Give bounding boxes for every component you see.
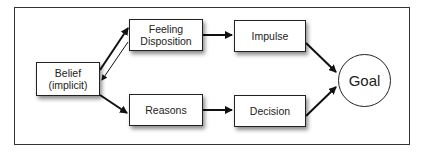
node-belief: Belief (implicit)	[36, 62, 100, 96]
node-feeling-disposition: Feeling Disposition	[129, 19, 203, 51]
node-goal: Goal	[338, 54, 391, 107]
node-reasons: Reasons	[129, 94, 203, 126]
node-impulse-label: Impulse	[252, 30, 289, 42]
edge-belief-to-reasons	[100, 95, 127, 113]
node-decision: Decision	[234, 95, 306, 127]
node-goal-label: Goal	[349, 72, 381, 89]
node-impulse: Impulse	[234, 20, 306, 52]
edge-impulse-to-goal	[306, 43, 336, 72]
node-feeling-label: Feeling Disposition	[140, 23, 191, 47]
node-decision-label: Decision	[250, 105, 290, 117]
edge-decision-to-goal	[306, 87, 336, 116]
node-belief-label: Belief (implicit)	[48, 67, 87, 91]
node-reasons-label: Reasons	[145, 104, 186, 116]
